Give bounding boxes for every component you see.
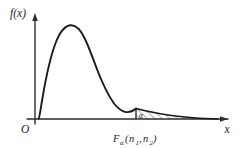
critical-value-n-first: n bbox=[129, 133, 134, 144]
critical-value-alpha-subscript: α bbox=[120, 139, 124, 147]
y-axis-label-text: f(x) bbox=[10, 7, 26, 20]
origin-label-text: O bbox=[21, 123, 30, 135]
critical-value-n-second: n bbox=[143, 133, 148, 144]
x-axis-label-text: x bbox=[223, 123, 230, 135]
critical-value-comma: , bbox=[139, 133, 142, 144]
figure-canvas: f(x) x O α F α ( n 1 , n 2 ) bbox=[0, 0, 242, 148]
f-distribution-figure: f(x) x O α F α ( n 1 , n 2 ) bbox=[0, 0, 242, 148]
density-curve bbox=[39, 25, 137, 119]
tail-shaded-region bbox=[130, 100, 225, 125]
y-axis-label: f(x) bbox=[10, 7, 26, 20]
critical-value-paren-close: ) bbox=[152, 133, 157, 145]
x-axis bbox=[27, 116, 228, 122]
critical-value-label: F α ( n 1 , n 2 ) bbox=[112, 133, 157, 147]
critical-value-f: F bbox=[112, 133, 120, 144]
y-axis bbox=[32, 13, 38, 124]
